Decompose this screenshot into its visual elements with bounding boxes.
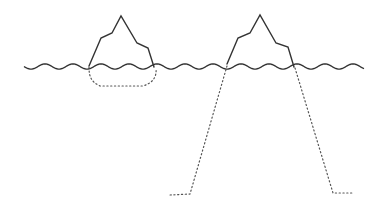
waterline-wave	[24, 64, 364, 69]
iceberg-right-visible-outline	[227, 15, 294, 67]
iceberg-left-visible-outline	[89, 16, 154, 67]
iceberg-right	[170, 15, 352, 195]
iceberg-left	[89, 16, 156, 86]
iceberg-right-submerged-outline-left	[170, 66, 227, 195]
iceberg-right-submerged-outline-right	[295, 68, 352, 193]
iceberg-diagram	[0, 0, 382, 210]
diagram-canvas	[0, 0, 382, 210]
iceberg-left-submerged-outline	[89, 67, 156, 86]
